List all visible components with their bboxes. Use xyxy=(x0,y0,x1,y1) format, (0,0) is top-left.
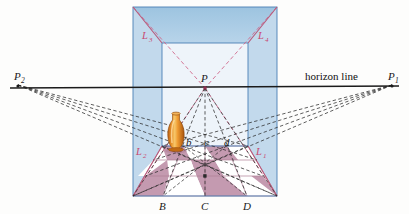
label-point-D: D xyxy=(242,200,251,212)
horizon-line-label: horizon line xyxy=(305,70,358,82)
label-L2-letter: L xyxy=(135,146,142,157)
label-L3-letter: L xyxy=(141,30,148,41)
label-point-B: B xyxy=(159,200,166,212)
vase-base xyxy=(168,148,183,152)
label-P2-letter: P xyxy=(13,70,21,82)
vase-rim xyxy=(172,112,180,115)
label-L2-subscript: 2 xyxy=(143,152,147,160)
vanishing-point-right-marker xyxy=(390,84,393,87)
label-L4-letter: L xyxy=(257,30,264,41)
label-P2-subscript: 2 xyxy=(21,76,25,85)
label-P1-subscript: 1 xyxy=(395,76,399,85)
label-point-C: C xyxy=(201,200,209,212)
label-point-d: d xyxy=(224,136,230,148)
label-L1-letter: L xyxy=(255,146,262,157)
label-point-b: b xyxy=(186,136,192,148)
perspective-diagram: P 2 P 1 P horizon line L 1 L 2 L 3 L xyxy=(0,0,409,214)
label-L4-subscript: 4 xyxy=(265,36,269,44)
vanishing-point-left-marker xyxy=(16,84,19,87)
label-L3-subscript: 3 xyxy=(148,36,153,44)
label-L1-subscript: 1 xyxy=(263,152,267,160)
label-point-c: c xyxy=(204,136,209,148)
floor-center-marker xyxy=(203,174,206,177)
label-center-point: P xyxy=(200,72,208,84)
vanishing-point-center-marker xyxy=(203,86,207,90)
perspective-figure: P 2 P 1 P horizon line L 1 L 2 L 3 L xyxy=(0,0,409,214)
label-P1-letter: P xyxy=(387,70,395,82)
